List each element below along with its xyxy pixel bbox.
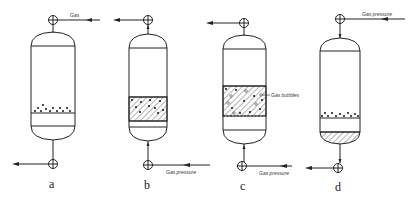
- arrow-in-icon: [147, 142, 150, 146]
- arrow-out-icon: [12, 162, 19, 166]
- arrow-out-icon: [113, 18, 120, 22]
- caption-d: d: [335, 180, 341, 194]
- caption-c: c: [240, 179, 245, 193]
- caption-a: a: [49, 177, 55, 191]
- panel-b: [113, 16, 210, 170]
- label-gas-bubbles: Gas bubbles: [271, 92, 300, 98]
- arrow-in-icon: [381, 17, 388, 21]
- panel-d: [305, 15, 405, 173]
- label-gas-pressure-b: Gas pressure: [166, 169, 196, 175]
- arrow-out-icon: [305, 166, 312, 170]
- bubbles: [321, 112, 359, 117]
- bubbles: [34, 104, 71, 112]
- label-gas: Gas: [70, 12, 80, 18]
- arrow-out-icon: [206, 21, 213, 25]
- label-gas-pressure-c: Gas pressure: [259, 170, 289, 176]
- arrow-in-icon: [243, 145, 246, 149]
- panel-a: [12, 16, 100, 169]
- caption-b: b: [144, 178, 150, 192]
- label-gas-pressure-d: Gas pressure: [362, 11, 392, 17]
- arrow-in-icon: [86, 18, 92, 22]
- vessel-diagram: Gas a Gas pressure b: [0, 0, 416, 202]
